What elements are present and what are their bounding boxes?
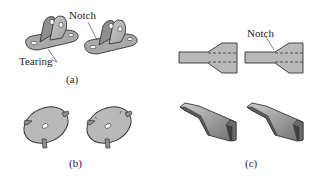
caption-c: (c) xyxy=(245,157,257,169)
panel-c-left-blank xyxy=(179,43,237,73)
panel-c-right-blank xyxy=(245,43,303,73)
caption-a: (a) xyxy=(66,73,78,85)
tearing-label: Tearing xyxy=(19,55,52,67)
panel-b-left-washer xyxy=(18,100,74,150)
panel-c-left-channel xyxy=(180,103,236,141)
notch-leader-a xyxy=(88,22,97,40)
notch-label-a: Notch xyxy=(69,9,96,21)
notch-label-c: Notch xyxy=(247,27,274,39)
panel-a-left-bracket xyxy=(26,16,79,50)
panel-b-right-washer xyxy=(81,100,137,150)
panel-c-right-channel xyxy=(247,103,303,141)
caption-b: (b) xyxy=(69,157,82,169)
panel-a-right-bracket xyxy=(85,20,138,54)
